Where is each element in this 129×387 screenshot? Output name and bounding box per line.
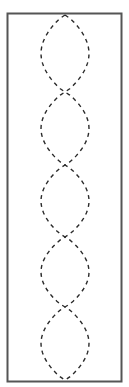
twisted-loops-diagram (0, 0, 129, 387)
strand-a (41, 15, 89, 380)
strand-b (41, 15, 89, 380)
diagram-frame (8, 14, 122, 382)
